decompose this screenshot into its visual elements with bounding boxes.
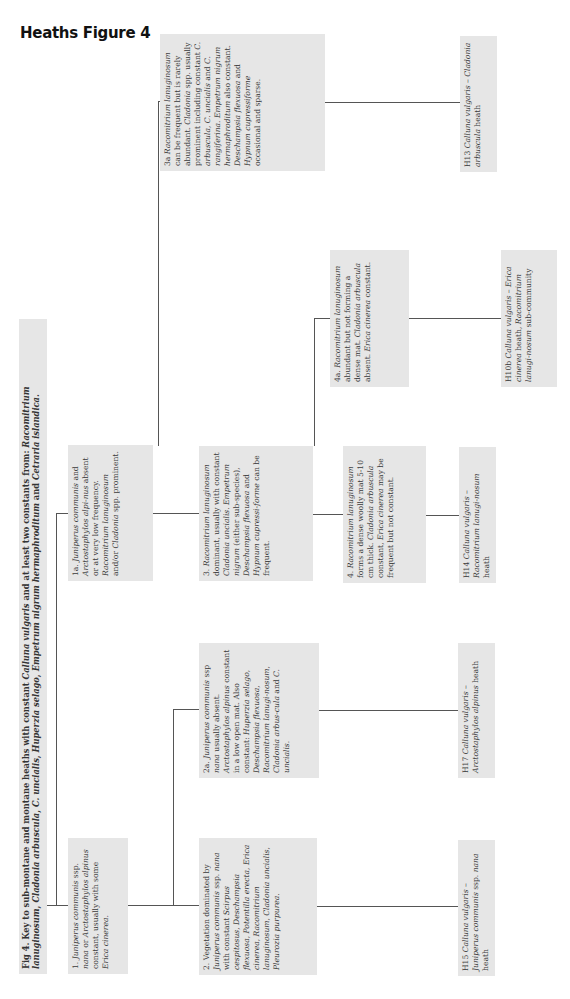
key-node-3: 3. Racomitrium lanuginosum dominant, usu… xyxy=(199,446,313,581)
key-node-2a: 2a. Juniperus communis ssp nana usually … xyxy=(199,643,319,778)
caption-box: Fig 4. Key to sub-montane and montane he… xyxy=(19,319,47,974)
connector-line xyxy=(314,318,315,446)
node-text: 1a. Juniperus communis and Arctostaphylo… xyxy=(68,445,153,581)
connector-line xyxy=(56,513,68,514)
node-text: 2. Vegetation dominated by Juniperus com… xyxy=(199,838,317,975)
connector-line xyxy=(409,318,501,319)
node-text: H15 Calluna vulgaris – Juniperus communi… xyxy=(458,840,495,976)
community-h15: H15 Calluna vulgaris – Juniperus communi… xyxy=(458,840,495,976)
node-text: H17 Calluna vulgaris – Arctostaphylos al… xyxy=(458,643,495,778)
connector-line xyxy=(128,905,199,906)
caption-text: Fig 4. Key to sub-montane and montane he… xyxy=(19,319,47,974)
node-text: 3. Racomitrium lanuginosum dominant, usu… xyxy=(199,446,313,581)
community-h13: H13 Calluna vulgaris – Cladonia arbuscul… xyxy=(460,36,497,172)
node-text: H14 Calluna vulgaris – Racomitrium lanug… xyxy=(459,447,496,583)
connector-line xyxy=(319,710,458,711)
connector-line xyxy=(56,513,57,906)
community-h14: H14 Calluna vulgaris – Racomitrium lanug… xyxy=(459,447,496,583)
node-text: 4a. Racomitrium lanuginosum abundant but… xyxy=(330,250,409,387)
key-node-3a: 3a Racomitrium lanuginosum can be freque… xyxy=(160,34,325,171)
key-node-1a: 1a. Juniperus communis and Arctostaphylo… xyxy=(68,445,153,581)
connector-line xyxy=(314,318,330,319)
figure-title: Heaths Figure 4 xyxy=(20,24,150,42)
node-text: H13 Calluna vulgaris – Cladonia arbuscul… xyxy=(460,36,497,172)
connector-line xyxy=(317,906,458,907)
node-text: 2a. Juniperus communis ssp nana usually … xyxy=(199,643,319,778)
node-text: 3a Racomitrium lanuginosum can be freque… xyxy=(160,34,325,171)
key-node-1: 1. Juniperus communis ssp. nana or Arcto… xyxy=(68,838,128,974)
key-node-2: 2. Vegetation dominated by Juniperus com… xyxy=(199,838,317,975)
node-text: 4. Racomitrium lanuginosum forms a dense… xyxy=(343,446,426,583)
node-text: H10b Calluna vulgaris – Erica cinerea he… xyxy=(501,250,557,387)
connector-line xyxy=(47,905,68,906)
connector-line xyxy=(325,102,460,103)
node-text: 1. Juniperus communis ssp. nana or Arcto… xyxy=(68,838,128,974)
connector-line xyxy=(173,709,174,906)
connector-line xyxy=(173,709,199,710)
connector-line xyxy=(153,513,199,514)
connector-line xyxy=(313,514,343,515)
community-h17: H17 Calluna vulgaris – Arctostaphylos al… xyxy=(458,643,495,778)
key-node-4: 4. Racomitrium lanuginosum forms a dense… xyxy=(343,446,426,583)
connector-line xyxy=(426,515,459,516)
community-h10b: H10b Calluna vulgaris – Erica cinerea he… xyxy=(501,250,557,387)
key-node-4a: 4a. Racomitrium lanuginosum abundant but… xyxy=(330,250,409,387)
